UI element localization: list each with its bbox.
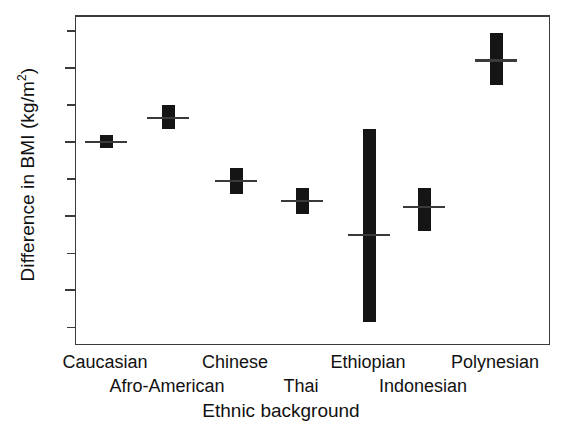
y-axis-minor-tick <box>67 327 76 329</box>
zero-reference-line <box>76 16 549 17</box>
mean-marker-line <box>281 200 323 202</box>
y-axis-title-superscript: 2 <box>15 74 29 81</box>
data-box <box>363 129 376 322</box>
mean-marker-line <box>475 59 517 61</box>
mean-marker-line <box>348 234 390 236</box>
mean-marker-line <box>147 117 189 119</box>
data-box <box>418 188 431 231</box>
y-axis-major-tick <box>65 141 76 143</box>
y-axis-minor-tick <box>67 253 76 255</box>
y-axis-minor-tick <box>67 104 76 106</box>
y-axis-title: Difference in BMI (kg/m2) <box>15 25 38 325</box>
y-axis-title-suffix: ) <box>17 68 38 74</box>
y-axis-minor-tick <box>67 178 76 180</box>
bmi-difference-chart: Difference in BMI (kg/m2) 40-4-8 Caucasi… <box>0 0 562 430</box>
y-axis-major-tick <box>65 67 76 69</box>
y-axis-major-tick <box>65 289 76 291</box>
x-axis-title: Ethnic background <box>0 400 562 422</box>
mean-marker-line <box>85 141 127 143</box>
x-axis-category-label: Indonesian <box>333 377 513 395</box>
y-axis-minor-tick <box>67 30 76 32</box>
plot-area <box>75 15 550 345</box>
y-axis-major-tick <box>65 215 76 217</box>
x-axis-category-label: Polynesian <box>405 353 562 371</box>
mean-marker-line <box>403 206 445 208</box>
mean-marker-line <box>215 180 257 182</box>
y-axis-title-text: Difference in BMI (kg/m <box>17 81 38 281</box>
